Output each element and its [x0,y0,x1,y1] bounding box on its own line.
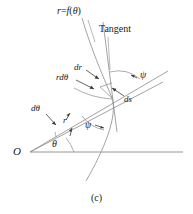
dr-leader [86,70,99,79]
dtheta-label: dθ [31,104,40,113]
origin-label: O [13,146,21,157]
psi-lower-leader [95,125,104,129]
tangent-line [103,22,117,132]
psi-upper-label: ψ [140,70,146,80]
tangent-label: Tangent [99,24,131,34]
theta-label: θ [52,139,57,149]
ds-leader [112,88,124,96]
curve-equation-close-paren: ) [78,5,81,16]
theta-arc [66,138,74,152]
radial-ray-upper [30,71,168,152]
radius-r-ray [30,82,163,152]
psi-upper-arc [110,71,140,79]
figure-container: r=f(θ) Tangent dr rdθ ψ ds dθ r ψ θ O (c… [0,0,193,214]
rdtheta-leader [76,80,94,89]
ds-label: ds [124,95,132,104]
polar-curve [82,18,113,181]
r-label: r [63,116,67,125]
polar-tangent-diagram [0,0,193,214]
dtheta-leader [46,114,56,125]
psi-upper-leader [131,75,137,78]
curve-equation-label: r=f(θ) [57,6,81,16]
dtheta-arc [55,132,56,137]
psi-lower-label: ψ [85,120,91,130]
r-dtheta-arc [74,88,112,99]
figure-caption: (c) [0,192,193,203]
r-dtheta-label: rdθ [56,73,68,82]
dr-label: dr [74,63,82,72]
